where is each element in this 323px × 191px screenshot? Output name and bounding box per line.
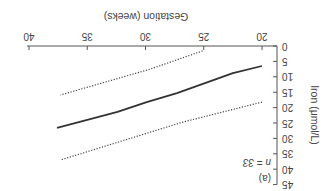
y-tick-label: 40 [282, 164, 294, 175]
chart-canvas: 0510152025303540452025303540 Gestation (… [0, 0, 323, 191]
x-tick-label: 20 [256, 31, 268, 42]
x-tick-label: 30 [140, 31, 152, 42]
x-tick-label: 35 [81, 31, 93, 42]
series-upper-bound-line [61, 102, 263, 160]
sample-size-annotation: n = 33 [242, 157, 271, 168]
x-tick-label: 40 [23, 31, 35, 42]
y-axis-title: Iron (μmol/L) [309, 85, 321, 145]
y-tick-label: 45 [282, 179, 294, 190]
x-axis-title: Gestation (weeks) [104, 11, 189, 23]
series-lower-bound-line [61, 51, 203, 95]
y-tick-label: 15 [282, 87, 294, 98]
series-mean-line [57, 66, 262, 128]
y-tick-label: 35 [282, 148, 294, 159]
y-tick-label: 10 [282, 71, 294, 82]
x-tick-label: 25 [198, 31, 210, 42]
chart: 0510152025303540452025303540 Gestation (… [0, 0, 323, 191]
y-tick-label: 25 [282, 118, 294, 129]
y-tick-label: 0 [282, 41, 288, 52]
y-tick-label: 30 [282, 133, 294, 144]
series-group [57, 51, 262, 160]
y-tick-label: 5 [282, 56, 288, 67]
y-tick-label: 20 [282, 102, 294, 113]
panel-label: (a) [259, 173, 271, 184]
